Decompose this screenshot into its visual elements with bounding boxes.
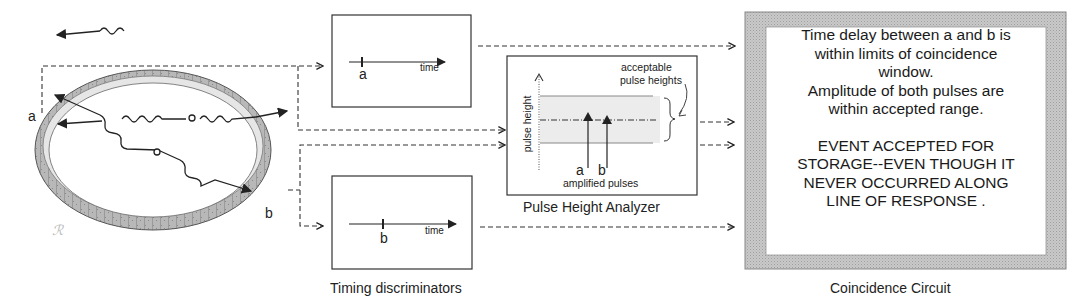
coincidence-description: Time delay between a and b is within lim… [767, 26, 1045, 211]
timing-b-axis-label: time [425, 225, 444, 236]
coincidence-line: Time delay between a and b is [767, 26, 1045, 45]
pha-y-axis-label: pulse height [521, 94, 533, 154]
timing-a-axis-label: time [420, 62, 439, 73]
coincidence-result-line: NEVER OCCURRED ALONG [767, 174, 1045, 193]
timing-a-marker: a [359, 66, 367, 82]
pha-window-label-1: acceptable [621, 61, 672, 73]
pha-pulse-b-label: b [598, 162, 606, 178]
coincidence-result-line: STORAGE--EVEN THOUGH IT [767, 155, 1045, 174]
coincidence-line: within accepted range. [767, 100, 1045, 119]
pha-window-label-2: pulse heights [620, 74, 682, 86]
detector-label-a: a [28, 108, 36, 124]
timing-discriminators-caption: Timing discriminators [330, 280, 462, 296]
coincidence-caption: Coincidence Circuit [830, 280, 951, 296]
coincidence-result-line: LINE OF RESPONSE . [767, 192, 1045, 211]
pha-pulse-a-label: a [576, 162, 584, 178]
timing-b-marker: b [380, 230, 388, 246]
pha-pulses-label: amplified pulses [563, 177, 638, 189]
ring-logo-icon: ℛ [52, 222, 64, 238]
coincidence-line: window. [767, 63, 1045, 82]
pha-caption: Pulse Height Analyzer [523, 199, 660, 215]
coincidence-result-line: EVENT ACCEPTED FOR [767, 137, 1045, 156]
timing-box-a [332, 15, 471, 107]
coincidence-line: within limits of coincidence [767, 45, 1045, 64]
coincidence-line: Amplitude of both pulses are [767, 82, 1045, 101]
timing-box-b [332, 176, 472, 269]
detector-label-b: b [265, 205, 273, 221]
